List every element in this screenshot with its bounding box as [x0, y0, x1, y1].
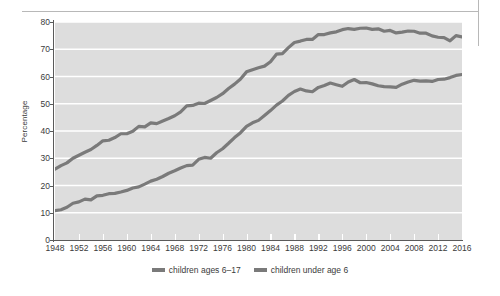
y-tick-mark — [50, 77, 53, 78]
x-tick-label: 1996 — [333, 243, 352, 253]
x-tick-label: 1956 — [93, 243, 112, 253]
legend-label: children under age 6 — [271, 265, 349, 275]
legend-swatch-icon — [254, 268, 267, 271]
x-tick-mark — [366, 234, 367, 240]
y-tick-label: 40 — [24, 127, 50, 135]
x-tick-mark — [199, 234, 200, 240]
series-lines — [55, 28, 462, 211]
x-tick-label: 1980 — [237, 243, 256, 253]
x-axis-tick-labels: 1948195219561960196419681972197619801984… — [0, 243, 500, 257]
x-tick-mark — [318, 234, 319, 240]
y-axis-line — [53, 20, 54, 242]
x-tick-label: 1972 — [189, 243, 208, 253]
x-tick-mark — [175, 234, 176, 240]
chart-legend: children ages 6–17 children under age 6 — [0, 263, 500, 277]
y-tick-label: 30 — [24, 154, 50, 162]
x-tick-label: 1960 — [117, 243, 136, 253]
x-tick-mark — [342, 234, 343, 240]
y-tick-mark — [50, 186, 53, 187]
page-right-rule — [478, 0, 479, 46]
x-tick-mark — [127, 234, 128, 240]
x-tick-mark — [103, 234, 104, 240]
page-top-rule — [22, 11, 479, 12]
chart-figure: Percentage 01020304050607080 19481952195… — [0, 0, 500, 296]
y-tick-label: 70 — [24, 45, 50, 53]
x-tick-label: 1948 — [46, 243, 65, 253]
plot-svg — [55, 22, 462, 240]
x-tick-label: 1976 — [213, 243, 232, 253]
x-tick-mark — [79, 234, 80, 240]
series-line-2 — [55, 75, 462, 211]
plot-area — [55, 22, 462, 240]
y-tick-label: 20 — [24, 182, 50, 190]
x-tick-mark — [151, 234, 152, 240]
x-axis-line — [53, 240, 463, 241]
x-tick-mark — [414, 234, 415, 240]
y-tick-mark — [50, 158, 53, 159]
x-tick-label: 1992 — [309, 243, 328, 253]
gridlines — [55, 22, 462, 213]
legend-item-children-under-6[interactable]: children under age 6 — [254, 265, 349, 275]
legend-swatch-icon — [152, 268, 165, 271]
x-tick-mark — [390, 234, 391, 240]
y-tick-mark — [50, 240, 53, 241]
y-tick-mark — [50, 22, 53, 23]
y-tick-mark — [50, 131, 53, 132]
x-tick-mark — [438, 234, 439, 240]
x-tick-label: 2012 — [429, 243, 448, 253]
x-tick-mark — [247, 234, 248, 240]
x-tick-label: 1952 — [69, 243, 88, 253]
y-tick-label: 80 — [24, 18, 50, 26]
x-tick-label: 1968 — [165, 243, 184, 253]
y-tick-label: 10 — [24, 209, 50, 217]
y-tick-label: 50 — [24, 100, 50, 108]
legend-item-children-6-17[interactable]: children ages 6–17 — [152, 265, 241, 275]
x-tick-label: 2008 — [405, 243, 424, 253]
y-tick-mark — [50, 213, 53, 214]
x-tick-label: 1984 — [261, 243, 280, 253]
x-tick-label: 1988 — [285, 243, 304, 253]
x-tick-label: 2000 — [357, 243, 376, 253]
x-tick-label: 2004 — [381, 243, 400, 253]
x-tick-label: 2016 — [453, 243, 472, 253]
y-tick-mark — [50, 49, 53, 50]
x-tick-mark — [223, 234, 224, 240]
y-tick-mark — [50, 104, 53, 105]
x-tick-label: 1964 — [141, 243, 160, 253]
x-tick-mark — [294, 234, 295, 240]
x-tick-mark — [462, 234, 463, 240]
legend-label: children ages 6–17 — [169, 265, 241, 275]
x-tick-mark — [270, 234, 271, 240]
y-tick-label: 60 — [24, 73, 50, 81]
